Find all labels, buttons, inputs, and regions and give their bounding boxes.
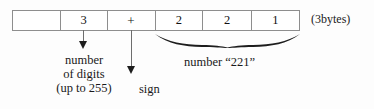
digits-brace-icon [154, 33, 301, 48]
cell-digit-count: 3 [61, 11, 108, 30]
digit-count-caption-line-3: (up to 255) [34, 81, 134, 95]
digit-count-caption-line-2: of digits [34, 67, 134, 81]
diagram-canvas: 3 + 2 2 1 (3bytes) number “221” number o… [0, 0, 374, 109]
sign-caption: sign [139, 82, 160, 96]
cell-digit-1: 2 [156, 11, 204, 30]
cell-digit-3: 1 [252, 11, 299, 30]
number-value-caption: number “221” [184, 55, 255, 69]
byte-size-note: (3bytes) [311, 13, 350, 25]
cell-digit-2: 2 [203, 11, 252, 30]
cell-blank [13, 11, 61, 30]
byte-layout-box: 3 + 2 2 1 [12, 10, 300, 31]
digit-count-caption-line-1: number [34, 53, 134, 67]
arrow-head [79, 41, 87, 49]
digit-count-arrow-icon [79, 30, 88, 49]
digit-count-caption: number of digits (up to 255) [34, 53, 134, 95]
cell-sign: + [108, 11, 156, 30]
